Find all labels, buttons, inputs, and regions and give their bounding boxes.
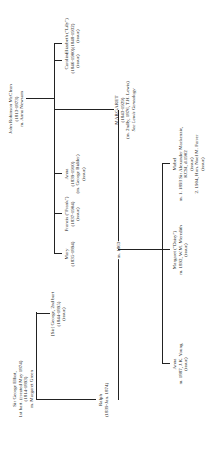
marriage-label: m. 1863 <box>116 241 121 259</box>
family-tree-diagram: John Robinson McClean (1813-1873) m. Ann… <box>0 0 213 464</box>
connector-line <box>54 253 62 254</box>
connector-line <box>54 60 62 61</box>
connector-line <box>162 363 170 364</box>
sibling-bar <box>36 312 37 400</box>
connector-line <box>162 163 170 164</box>
person-sir-george-elliot: Sir George Elliot, 1st bart. (created Ma… <box>12 361 34 418</box>
person-francis: Francis ("Frank") (1837-1904) (issue) <box>64 196 81 231</box>
person-elizabeth: Elizabeth ("Lily") (1848-1932) (issue) <box>64 18 81 54</box>
connector-line <box>36 399 96 400</box>
person-mabel: Mabel m. 1. 1893 Sir Alexander Mackenzie… <box>172 127 206 202</box>
connector-line <box>54 109 114 110</box>
person-sir-george-2nd-bart: [Sir] George, 2nd bart (1844-1895) (issu… <box>50 292 67 336</box>
connector-line <box>26 98 54 99</box>
person-anna-elliot: Anna m. 1887, J.K. Young (issue) <box>172 343 189 384</box>
sibling-bar <box>54 44 55 254</box>
connector-line <box>118 249 162 250</box>
person-john-robinson-mcclean: John Robinson McClean (1813-1873) m. Ann… <box>8 84 25 133</box>
person-margaret-daisy: Margaret ("Daisy") m. 1892, W.M. Meredit… <box>172 225 189 275</box>
person-mary: Mary (1835-1894) <box>64 242 75 267</box>
person-ralph: Ralph (1839-Jan. 1874) <box>98 383 109 417</box>
person-anna-mcclean: Anna (1839-1910) (m. George Bidder) (iss… <box>64 154 86 193</box>
connector-line <box>54 43 62 44</box>
connector-line <box>36 313 50 314</box>
connector-line <box>54 213 62 214</box>
connector-line <box>162 249 170 250</box>
connector-line <box>54 173 62 174</box>
person-name: John Robinson McClean <box>8 84 14 133</box>
person-spouse: m. Anna Newsam <box>19 84 25 133</box>
sibling-bar <box>162 164 163 364</box>
